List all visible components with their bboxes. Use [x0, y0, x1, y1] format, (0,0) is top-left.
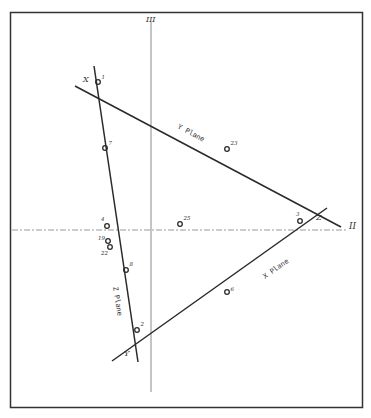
- svg-text:19: 19: [98, 235, 105, 241]
- ternary-plane-diagram: III II X Z Y Y Plane X Plane Z Plane 1 7…: [0, 0, 371, 418]
- svg-text:8: 8: [130, 261, 134, 267]
- svg-text:3: 3: [296, 211, 300, 217]
- point-25: 25: [178, 215, 191, 226]
- point-3: 3: [296, 211, 302, 223]
- vertex-y-label: Y: [124, 349, 130, 358]
- point-4: 4: [100, 216, 109, 228]
- svg-text:1: 1: [102, 74, 106, 80]
- point-22: 22: [100, 245, 112, 256]
- x-plane-line: [112, 208, 327, 361]
- z-plane-line: [94, 66, 138, 362]
- axis-ii-label: II: [348, 221, 357, 231]
- vertex-z-label: Z: [315, 213, 322, 222]
- point-6: 6: [225, 286, 235, 294]
- y-plane-label: Y Plane: [176, 123, 206, 144]
- vertex-x-label: X: [82, 75, 89, 84]
- svg-text:22: 22: [100, 250, 108, 256]
- point-7: 7: [103, 140, 113, 150]
- svg-text:2: 2: [140, 321, 145, 327]
- point-23: 23: [225, 140, 238, 151]
- point-2: 2: [135, 321, 145, 332]
- svg-text:25: 25: [183, 215, 191, 221]
- z-plane-label: Z Plane: [111, 286, 124, 316]
- svg-text:6: 6: [231, 286, 235, 292]
- x-plane-label: X Plane: [262, 257, 291, 280]
- point-19: 19: [98, 235, 110, 243]
- svg-text:7: 7: [109, 140, 113, 146]
- svg-text:23: 23: [230, 140, 238, 146]
- axis-iii-label: III: [145, 15, 156, 24]
- svg-text:4: 4: [100, 216, 105, 222]
